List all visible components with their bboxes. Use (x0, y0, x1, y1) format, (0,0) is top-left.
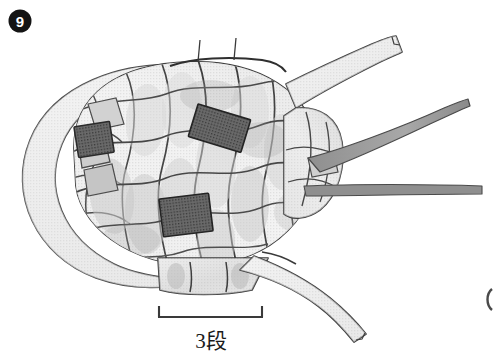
dark-patch-upper-left (74, 121, 114, 157)
figure-number-badge: 9 (9, 10, 32, 33)
illustration-canvas: 9 3段 (0, 0, 495, 355)
dark-patch-lower-mid (159, 193, 213, 237)
scale-bar-label: 3段 (195, 329, 227, 353)
figure-plate: 9 3段 (0, 0, 495, 355)
appendage-lower-right (304, 185, 482, 197)
figure-number-label: 9 (16, 13, 24, 30)
